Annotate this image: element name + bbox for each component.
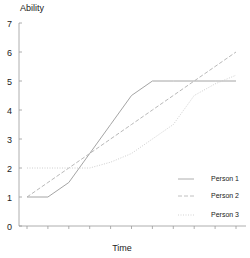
legend-label-person-1: Person 1: [211, 175, 239, 182]
y-tick-label: 4: [7, 106, 12, 116]
y-tick-label: 1: [7, 193, 12, 203]
y-tick-label: 6: [7, 48, 12, 58]
y-tick-label: 0: [7, 222, 12, 232]
legend: Person 1 Person 2 Person 3: [178, 175, 239, 218]
y-ticks: 01234567: [7, 19, 22, 232]
series-line-person-3: [27, 75, 236, 168]
legend-label-person-2: Person 2: [211, 192, 239, 199]
y-tick-label: 7: [7, 19, 12, 29]
line-chart: Ability 01234567 Time Person 1 Person 2 …: [0, 0, 250, 258]
series-line-person-2: [27, 52, 236, 197]
y-tick-label: 5: [7, 77, 12, 87]
y-tick-label: 3: [7, 135, 12, 145]
y-axis-title: Ability: [20, 3, 45, 13]
series-line-person-1: [27, 81, 236, 197]
x-ticks: [27, 226, 236, 229]
y-tick-label: 2: [7, 164, 12, 174]
x-axis-title: Time: [112, 243, 132, 253]
legend-label-person-3: Person 3: [211, 211, 239, 218]
series-lines: [27, 52, 236, 197]
chart-canvas: Ability 01234567 Time Person 1 Person 2 …: [0, 0, 250, 258]
